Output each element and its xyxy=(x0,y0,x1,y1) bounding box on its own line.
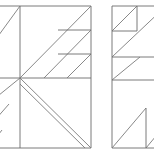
figure-canvas xyxy=(0,0,154,155)
figure-background xyxy=(0,0,154,155)
geometric-line-figure xyxy=(0,0,154,155)
